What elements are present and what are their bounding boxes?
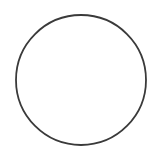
circle-shape (16, 15, 146, 145)
diagram-canvas (0, 0, 149, 161)
diagram-svg (0, 0, 149, 161)
